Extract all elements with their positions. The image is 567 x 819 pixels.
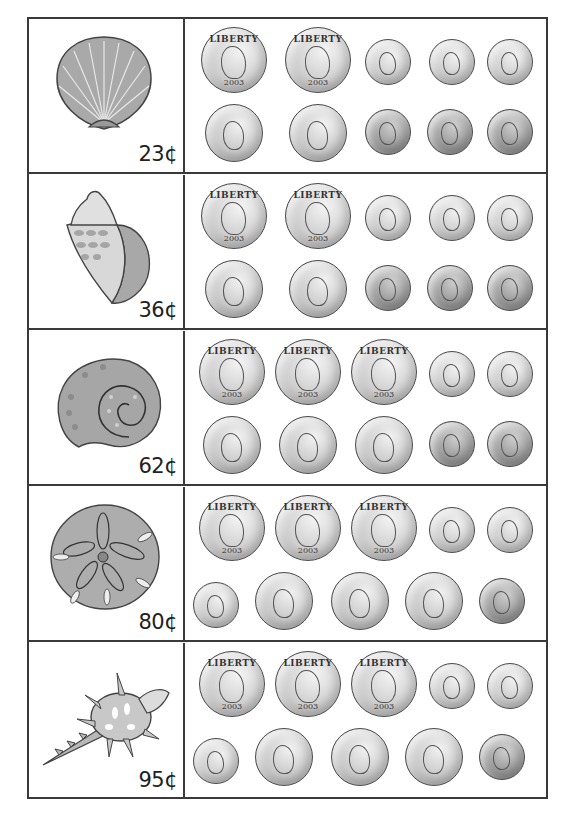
coins-cell: LIBERTY2003 LIBERTY2003 [185, 19, 546, 172]
dime-coin [487, 507, 533, 553]
price-label: 80¢ [138, 610, 177, 634]
price-label: 36¢ [138, 298, 177, 322]
money-worksheet: 23¢ LIBERTY2003 LIBERTY2003 [27, 17, 548, 799]
penny-coin [479, 578, 525, 624]
spiral-snail-shell-icon [49, 347, 169, 457]
shell-cell: 80¢ [29, 487, 185, 640]
nickel-coin [255, 572, 313, 630]
penny-coin [479, 734, 525, 780]
dime-coin [429, 39, 475, 85]
quarter-coin: LIBERTY2003 [199, 339, 265, 405]
quarter-coin: LIBERTY2003 [199, 495, 265, 561]
quarter-coin: LIBERTY2003 [351, 651, 417, 717]
shell-cell: 95¢ [29, 643, 185, 798]
scallop-shell-icon [49, 31, 159, 141]
dime-coin [487, 663, 533, 709]
nickel-coin [289, 104, 347, 162]
coins-cell: LIBERTY2003 LIBERTY2003 LIBERTY2003 [185, 487, 546, 640]
dime-coin [429, 195, 475, 241]
worksheet-row-2: 36¢ LIBERTY2003 LIBERTY2003 [29, 175, 546, 330]
nickel-coin [331, 728, 389, 786]
quarter-coin: LIBERTY2003 [275, 651, 341, 717]
penny-coin [487, 109, 533, 155]
nickel-coin [205, 104, 263, 162]
price-label: 95¢ [138, 768, 177, 792]
quarter-coin: LIBERTY2003 [351, 495, 417, 561]
dime-coin [193, 582, 239, 628]
nickel-coin [289, 260, 347, 318]
nickel-coin [203, 416, 261, 474]
worksheet-row-4: 80¢ LIBERTY2003 LIBERTY2003 LIBERTY2003 [29, 487, 546, 642]
coins-cell: LIBERTY2003 LIBERTY2003 LIBERTY2003 [185, 331, 546, 484]
worksheet-row-3: 62¢ LIBERTY2003 LIBERTY2003 LIBERTY2003 [29, 331, 546, 486]
quarter-coin: LIBERTY2003 [285, 27, 351, 93]
quarter-coin: LIBERTY2003 [285, 183, 351, 249]
nickel-coin [355, 416, 413, 474]
penny-coin [429, 421, 475, 467]
shell-cell: 62¢ [29, 331, 185, 484]
penny-coin [487, 421, 533, 467]
quarter-coin: LIBERTY2003 [201, 183, 267, 249]
conch-shell-icon [57, 185, 157, 305]
sand-dollar-icon [47, 501, 163, 613]
dime-coin [487, 39, 533, 85]
nickel-coin [405, 572, 463, 630]
dime-coin [487, 195, 533, 241]
dime-coin [365, 195, 411, 241]
price-label: 23¢ [138, 142, 177, 166]
coins-cell: LIBERTY2003 LIBERTY2003 [185, 175, 546, 328]
spiky-murex-shell-icon [39, 669, 179, 769]
shell-cell: 36¢ [29, 175, 185, 328]
penny-coin [427, 109, 473, 155]
quarter-coin: LIBERTY2003 [351, 339, 417, 405]
quarter-coin: LIBERTY2003 [199, 651, 265, 717]
dime-coin [365, 39, 411, 85]
penny-coin [487, 265, 533, 311]
coins-cell: LIBERTY2003 LIBERTY2003 LIBERTY2003 [185, 643, 546, 798]
penny-coin [365, 109, 411, 155]
nickel-coin [405, 728, 463, 786]
shell-cell: 23¢ [29, 19, 185, 172]
dime-coin [429, 351, 475, 397]
quarter-coin: LIBERTY2003 [201, 27, 267, 93]
nickel-coin [331, 572, 389, 630]
dime-coin [193, 738, 239, 784]
quarter-coin: LIBERTY2003 [275, 495, 341, 561]
nickel-coin [205, 260, 263, 318]
worksheet-row-5: 95¢ LIBERTY2003 LIBERTY2003 LIBERTY2003 [29, 643, 546, 798]
penny-coin [365, 265, 411, 311]
penny-coin [427, 265, 473, 311]
nickel-coin [279, 416, 337, 474]
nickel-coin [255, 728, 313, 786]
dime-coin [429, 663, 475, 709]
dime-coin [487, 351, 533, 397]
worksheet-row-1: 23¢ LIBERTY2003 LIBERTY2003 [29, 19, 546, 174]
price-label: 62¢ [138, 454, 177, 478]
quarter-coin: LIBERTY2003 [275, 339, 341, 405]
dime-coin [429, 507, 475, 553]
